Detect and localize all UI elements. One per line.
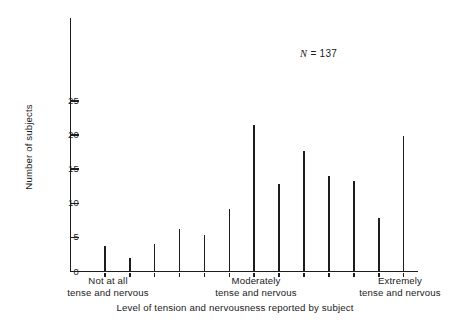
bar — [303, 151, 305, 271]
x-axis-group-label-left: Not at all tense and nervous — [48, 275, 168, 300]
bar — [278, 184, 280, 272]
x-axis-group-label-left-line2: tense and nervous — [48, 287, 168, 299]
x-axis-tick-mark — [328, 273, 330, 277]
bar — [204, 235, 206, 272]
bar — [104, 246, 106, 271]
bar — [253, 125, 255, 272]
x-axis-tick-mark — [179, 273, 181, 277]
bar — [378, 218, 380, 272]
x-axis-group-label-left-line1: Not at all — [48, 275, 168, 287]
bar — [229, 209, 231, 271]
bar — [129, 258, 131, 272]
x-axis-group-label-right-line1: Extremely — [340, 275, 455, 287]
x-axis-group-label-middle-line2: tense and nervous — [196, 287, 316, 299]
bar — [328, 176, 330, 271]
bar — [403, 136, 405, 272]
x-axis-title: Level of tension and nervousness reporte… — [40, 302, 430, 313]
sample-size-annotation: N = 137 — [300, 48, 337, 59]
bar — [179, 229, 181, 272]
bar — [154, 244, 156, 271]
annotation-value: = 137 — [307, 48, 337, 59]
x-axis-group-label-middle-line1: Moderately — [196, 275, 316, 287]
chart-figure: Number of subjects 0510152025 N = 137 No… — [0, 0, 455, 326]
x-axis-group-label-right: Extremely tense and nervous — [340, 275, 455, 300]
x-axis-group-label-right-line2: tense and nervous — [340, 287, 455, 299]
x-axis-group-label-middle: Moderately tense and nervous — [196, 275, 316, 300]
bar — [353, 181, 355, 271]
